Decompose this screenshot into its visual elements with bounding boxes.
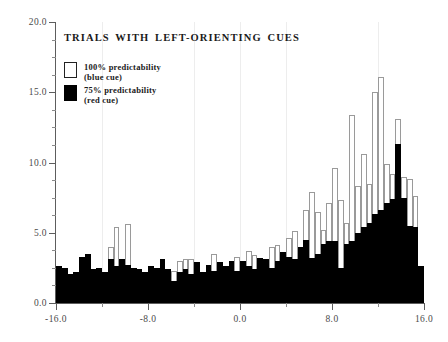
y-tick-minor [52,110,56,111]
x-tick-minor [102,303,103,307]
y-tick-label: 5.0 [34,228,47,238]
y-tick-label: 10.0 [29,158,47,168]
y-tick-minor [52,198,56,199]
x-tick-label: 8.0 [325,314,338,324]
y-tick [49,92,56,93]
x-tick [148,303,149,310]
legend-swatch-filled-icon [64,85,77,101]
chart-page: 0.05.010.015.020.0 -16.0-8.00.08.016.0 T… [0,0,448,342]
y-tick-minor [52,40,56,41]
y-tick-minor [52,215,56,216]
chart-title: TRIALS WITH LEFT-ORIENTING CUES [64,32,300,43]
x-tick [240,303,241,310]
y-tick [49,163,56,164]
y-tick [49,22,56,23]
legend-label: 75% predictability [84,85,157,95]
x-tick-minor [194,303,195,307]
x-tick-minor [286,303,287,307]
x-tick-label: 16.0 [415,314,433,324]
legend-item-75-predictability: 75% predictability (red cue) [64,85,161,105]
y-tick-label: 15.0 [29,87,47,97]
x-tick [424,303,425,310]
y-tick [49,303,56,304]
legend-label: 100% predictability [84,62,161,72]
x-tick-label: -8.0 [140,314,157,324]
y-tick-minor [52,145,56,146]
y-tick-minor [52,127,56,128]
y-tick-minor [52,75,56,76]
x-tick [56,303,57,310]
y-tick-minor [52,57,56,58]
y-tick-minor [52,250,56,251]
y-tick-minor [52,285,56,286]
legend-swatch-open-icon [64,62,77,78]
legend-item-100-predictability: 100% predictability (blue cue) [64,62,161,82]
y-tick [49,233,56,234]
x-tick-label: -16.0 [45,314,67,324]
y-tick-label: 0.0 [34,298,47,308]
legend-label-group: 75% predictability (red cue) [84,85,157,105]
chart-legend: 100% predictability (blue cue) 75% predi… [64,62,161,108]
x-tick-minor [378,303,379,307]
legend-sublabel: (blue cue) [84,72,122,82]
y-tick-label: 20.0 [29,17,47,27]
y-tick-minor [52,180,56,181]
y-tick-minor [52,268,56,269]
bar-filled [418,266,424,303]
grid-guide [194,22,195,303]
x-tick [332,303,333,310]
legend-sublabel: (red cue) [84,95,118,105]
legend-label-group: 100% predictability (blue cue) [84,62,161,82]
x-tick-label: 0.0 [233,314,246,324]
